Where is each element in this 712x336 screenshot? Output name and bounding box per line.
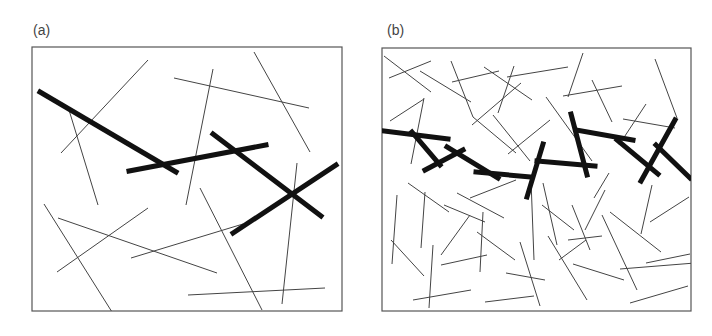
thin-fiber-line <box>568 53 583 97</box>
thin-fiber-line <box>559 240 586 260</box>
thin-fiber-line <box>188 288 325 295</box>
thin-fiber-line <box>413 290 471 300</box>
thin-fiber-line <box>630 286 688 303</box>
thin-fiber-line <box>610 212 661 252</box>
thin-fiber-line <box>444 205 485 222</box>
thin-fiber-line <box>542 205 574 230</box>
thin-fiber-line <box>546 97 592 161</box>
thin-fiber-line <box>451 61 473 117</box>
thin-fiber-line <box>592 80 612 122</box>
thin-fiber-line <box>543 183 557 245</box>
thin-fiber-line <box>531 180 534 260</box>
thick-path-segment <box>527 144 543 197</box>
thick-path-segment <box>476 172 531 177</box>
thin-fiber-line <box>485 296 534 302</box>
panel-b-thick-path <box>384 114 690 197</box>
thin-fiber-line <box>57 208 148 272</box>
thick-path-segment <box>233 165 336 233</box>
thin-fiber-line <box>646 254 690 263</box>
thin-fiber-line <box>655 59 677 118</box>
thin-fiber-line <box>174 78 309 108</box>
thin-fiber-line <box>548 236 587 300</box>
thick-path-segment <box>576 130 633 140</box>
thin-fiber-line <box>498 66 514 113</box>
thin-fiber-line <box>131 224 243 258</box>
thin-fiber-line <box>441 215 470 255</box>
thin-fiber-line <box>282 163 297 304</box>
thin-fiber-line <box>44 204 112 312</box>
thin-fiber-line <box>61 60 148 153</box>
thin-fiber-line <box>507 67 568 77</box>
thin-fiber-line <box>620 263 695 269</box>
thick-path-segment <box>40 92 176 172</box>
thin-fiber-line <box>390 99 424 121</box>
thin-fiber-line <box>563 86 622 96</box>
thin-fiber-line <box>391 240 424 276</box>
thin-fiber-line <box>573 264 624 280</box>
thin-fiber-line <box>420 71 471 102</box>
thin-fiber-line <box>421 192 425 248</box>
panel-b-thin-lines <box>384 53 695 308</box>
thin-fiber-line <box>641 185 652 234</box>
thin-fiber-line <box>506 273 545 280</box>
panel-a-thin-lines <box>44 52 325 312</box>
thick-path-segment <box>656 145 690 178</box>
thin-fiber-line <box>254 52 310 152</box>
thin-fiber-line <box>457 193 504 218</box>
thin-fiber-line <box>429 245 433 308</box>
thin-fiber-line <box>186 69 213 205</box>
thin-fiber-line <box>392 195 397 264</box>
thin-fiber-line <box>384 56 431 92</box>
thin-fiber-line <box>408 183 449 212</box>
panel-a <box>32 47 342 312</box>
thin-fiber-line <box>650 197 689 222</box>
thin-fiber-line <box>594 173 609 198</box>
panel-b <box>382 48 695 311</box>
figure-canvas <box>0 0 712 336</box>
thin-fiber-line <box>470 180 516 198</box>
